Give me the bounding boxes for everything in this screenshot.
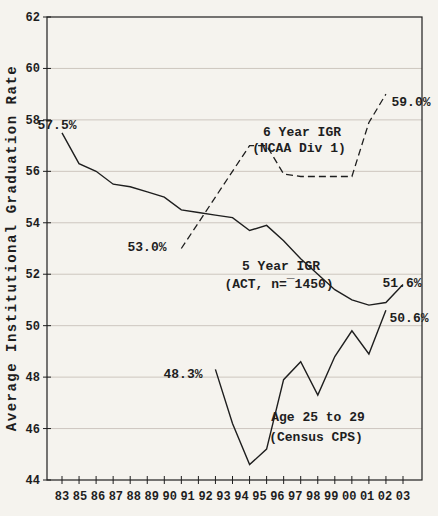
ncaa-end-value-label: 59.0% [391,95,430,110]
x-tick-label: 89 [145,490,159,504]
act-end-value-label: 51.6% [382,276,421,291]
x-tick-label: 88 [127,490,141,504]
y-tick-label: 50 [26,320,40,334]
x-tick-label: 93 [216,490,230,504]
y-tick-label: 46 [26,423,40,437]
x-tick-label: 86 [91,490,105,504]
x-tick-label: 95 [252,490,266,504]
x-tick-label: 99 [324,490,338,504]
y-tick-label: 52 [26,268,40,282]
x-tick-label: 87 [109,490,123,504]
act-series-label-line1: 5 Year IGR [242,259,320,274]
act-series-label-line2: (ACT, n=¯1450) [224,277,333,292]
y-tick-label: 44 [26,474,40,488]
graduation-rate-line-chart: 62605856545250484644 8385868788899091929… [0,0,438,516]
x-tick-label: 00 [342,490,356,504]
x-tick-label: 97 [288,490,302,504]
x-axis-ticks [62,476,403,484]
y-tick-label: 60 [26,62,40,76]
y-tick-label: 54 [26,217,40,231]
x-tick-label: 91 [180,490,194,504]
x-tick-label: 98 [306,490,320,504]
x-tick-labels: 8385868788899091929394959697989900010203 [55,490,410,504]
x-tick-label: 85 [73,490,87,504]
x-tick-label: 92 [198,490,212,504]
census-start-value-label: 48.3% [163,367,202,382]
ncaa-series-label-line2: (NCAA Div 1) [252,141,346,156]
x-tick-label: 96 [270,490,284,504]
act-start-value-label: 57.5% [37,118,76,133]
x-tick-label: 02 [378,490,392,504]
gridlines [47,68,422,428]
y-tick-label: 62 [26,11,40,25]
x-tick-label: 03 [396,490,410,504]
y-tick-label: 48 [26,371,40,385]
census-series-label-line2: (Census CPS) [269,430,363,445]
census-end-value-label: 50.6% [389,311,428,326]
x-tick-label: 90 [162,490,176,504]
y-tick-labels: 62605856545250484644 [26,11,40,488]
ncaa-start-value-label: 53.0% [127,240,166,255]
x-tick-label: 94 [234,490,248,504]
y-tick-label: 56 [26,165,40,179]
y-axis-title: Average Institutional Graduation Rate [4,65,20,431]
x-tick-label: 01 [360,490,374,504]
census-series-label-line1: Age 25 to 29 [271,410,365,425]
x-tick-label: 83 [55,490,69,504]
plot-border [47,17,422,480]
ncaa-series-label-line1: 6 Year IGR [263,125,341,140]
